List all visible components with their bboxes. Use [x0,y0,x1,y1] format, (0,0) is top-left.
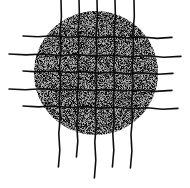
grid-over-disk-figure [0,0,190,188]
figure-canvas [0,0,190,188]
